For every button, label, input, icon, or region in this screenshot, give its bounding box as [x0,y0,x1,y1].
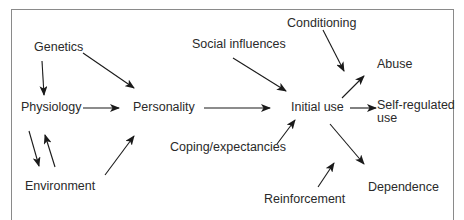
arrow-physiology-environment [29,131,39,166]
arrow-social-initial-use [233,58,286,91]
node-coping-expectancies: Coping/expectancies [170,141,286,154]
arrow-reinforcement [318,163,334,187]
arrow-conditioning [323,30,344,71]
arrow-environment-personality [105,136,134,175]
node-physiology: Physiology [21,101,81,114]
node-initial-use: Initial use [291,101,344,114]
node-genetics: Genetics [34,41,83,54]
arrow-environment-physiology [45,135,55,167]
node-self-regulated-use: Self-regulated use [377,99,455,125]
arrow-genetics-personality [83,53,134,88]
node-self-regulated-line2: use [377,112,455,125]
node-dependence: Dependence [368,181,439,194]
arrow-initial-use-dependence [330,124,364,164]
arrow-initial-use-abuse [342,76,364,98]
node-abuse: Abuse [377,58,412,71]
node-personality: Personality [133,101,195,114]
node-reinforcement: Reinforcement [264,193,345,206]
arrow-genetics-physiology [42,61,44,95]
node-social-influences: Social influences [192,38,286,51]
node-conditioning: Conditioning [287,17,357,30]
node-environment: Environment [25,180,95,193]
